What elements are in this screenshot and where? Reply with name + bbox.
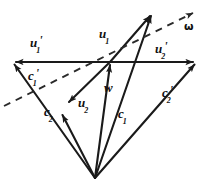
label-u2-prime: u2' [155, 40, 170, 59]
label-u2: u2 [78, 94, 89, 113]
label-w: w [104, 79, 113, 95]
label-omega: ω [184, 21, 194, 32]
label-u1-prime: u1' [30, 34, 45, 53]
label-c1: c1 [118, 105, 128, 124]
label-u1: u1 [99, 25, 110, 44]
label-c1-prime: c1' [28, 67, 41, 86]
label-c2: c2 [44, 103, 54, 122]
vector-line-c2 [63, 115, 96, 178]
vector-diagram-figure: u1' u1 u2' ω c1' c2' w u2 c2 c1 [0, 0, 213, 182]
label-c2-prime: c2' [162, 84, 175, 103]
